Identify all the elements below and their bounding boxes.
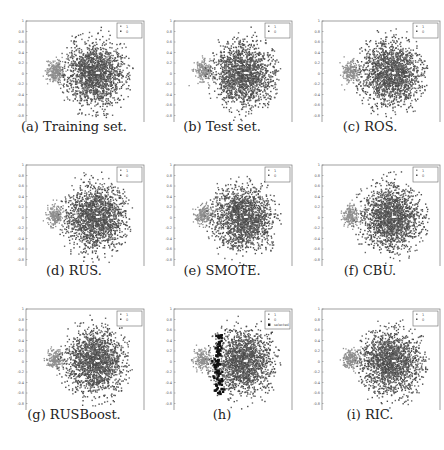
- scatter-plot: 2.533.544.5510.80.60.40.20-0.2-0.4-0.6-0…: [148, 2, 296, 122]
- legend: 10: [413, 311, 438, 326]
- y-tick-label: 0: [22, 216, 24, 220]
- y-tick-label: 0.2: [166, 61, 172, 65]
- y-tick-label: -0.8: [165, 114, 172, 118]
- y-tick-label: 0.8: [18, 318, 24, 322]
- y-tick-label: 0.6: [166, 184, 172, 188]
- y-tick-label: 0.8: [18, 174, 24, 178]
- y-tick-label: 0.2: [314, 61, 320, 65]
- y-tick-label: 0.2: [166, 205, 172, 209]
- y-tick-label: 0.6: [18, 328, 24, 332]
- y-tick-label: 0.6: [166, 328, 172, 332]
- y-tick-label: 0.6: [314, 184, 320, 188]
- panel-caption: (f) CBU.: [296, 263, 444, 278]
- y-tick-label: 0.4: [166, 51, 172, 55]
- panel-c: 2.533.544.5510.80.60.40.20-0.2-0.4-0.6-0…: [296, 2, 444, 146]
- legend: 10: [117, 23, 142, 38]
- scatter-plot: 2.533.544.5510.80.60.40.20-0.2-0.4-0.6-0…: [296, 290, 444, 410]
- y-tick-label: -0.6: [17, 247, 24, 251]
- y-tick-label: 0.4: [314, 339, 320, 343]
- legend-label: 0: [126, 174, 128, 178]
- y-tick-label: 1: [170, 19, 172, 23]
- legend-label: 1: [126, 169, 128, 173]
- legend: 10: [265, 167, 290, 182]
- panel-caption: (d) RUS.: [0, 263, 148, 278]
- y-tick-label: -0.2: [313, 226, 320, 230]
- y-tick-label: 1: [318, 307, 320, 311]
- legend-label: 1: [422, 169, 424, 173]
- y-tick-label: 0: [318, 72, 320, 76]
- legend-label: 1: [274, 25, 276, 29]
- y-tick-label: -0.4: [313, 93, 321, 97]
- y-tick-label: -0.8: [313, 114, 320, 118]
- y-tick-label: -0.4: [313, 381, 321, 385]
- panel-e: 2.533.544.5510.80.60.40.20-0.2-0.4-0.6-0…: [148, 146, 296, 290]
- legend: 10: [413, 167, 438, 182]
- y-tick-label: 0.8: [314, 30, 320, 34]
- y-tick-label: -0.2: [313, 370, 320, 374]
- y-tick-label: -0.4: [165, 381, 173, 385]
- y-tick-label: -0.6: [165, 391, 172, 395]
- y-tick-label: 0: [22, 360, 24, 364]
- y-tick-label: 1: [22, 19, 24, 23]
- legend-label: 1: [422, 25, 424, 29]
- y-tick-label: -0.6: [313, 103, 320, 107]
- y-tick-label: 1: [170, 163, 172, 167]
- y-tick-label: 0.6: [314, 40, 320, 44]
- scatter-plot: 2.533.544.5510.80.60.40.20-0.2-0.4-0.6-0…: [0, 146, 148, 266]
- panel-f: 2.533.544.5510.80.60.40.20-0.2-0.4-0.6-0…: [296, 146, 444, 290]
- y-tick-label: 0.8: [166, 30, 172, 34]
- panel-caption: (g) RUSBoost.: [0, 407, 148, 422]
- panel-caption: (h): [148, 407, 296, 422]
- y-tick-label: 0: [318, 360, 320, 364]
- y-tick-label: 0.4: [18, 195, 24, 199]
- y-tick-label: -0.6: [17, 391, 24, 395]
- legend: 10: [117, 167, 142, 182]
- legend-label: 1: [274, 169, 276, 173]
- y-tick-label: 1: [22, 307, 24, 311]
- y-tick-label: -0.8: [17, 258, 24, 262]
- scatter-plot: 2.533.544.5510.80.60.40.20-0.2-0.4-0.6-0…: [296, 146, 444, 266]
- legend-label: 0: [126, 30, 128, 34]
- legend-label: 1: [422, 313, 424, 317]
- panel-caption: (a) Training set.: [0, 119, 148, 134]
- y-tick-label: 0.8: [314, 174, 320, 178]
- y-tick-label: 0.4: [314, 51, 320, 55]
- y-tick-label: -0.8: [313, 402, 320, 406]
- legend-label: 0: [422, 30, 424, 34]
- y-tick-label: -0.2: [165, 226, 172, 230]
- y-tick-label: 0: [22, 72, 24, 76]
- panel-caption: (b) Test set.: [148, 119, 296, 134]
- y-tick-label: -0.6: [313, 391, 320, 395]
- y-tick-label: 0.2: [18, 61, 24, 65]
- y-tick-label: 0: [170, 72, 172, 76]
- y-tick-label: 1: [170, 307, 172, 311]
- y-tick-label: -0.8: [165, 402, 172, 406]
- scatter-plot: 2.533.544.5510.80.60.40.20-0.2-0.4-0.6-0…: [148, 146, 296, 266]
- y-tick-label: 1: [318, 19, 320, 23]
- y-tick-label: -0.6: [313, 247, 320, 251]
- y-tick-label: 0: [318, 216, 320, 220]
- y-tick-label: -0.4: [17, 93, 25, 97]
- y-tick-label: 0.2: [18, 349, 24, 353]
- scatter-plot: 2.533.544.5510.80.60.40.20-0.2-0.4-0.6-0…: [0, 290, 148, 410]
- y-tick-label: 0.4: [18, 51, 24, 55]
- y-tick-label: 0.8: [18, 30, 24, 34]
- legend-label: 1: [126, 25, 128, 29]
- y-tick-label: -0.8: [313, 258, 320, 262]
- y-tick-label: 0.6: [18, 184, 24, 188]
- y-tick-label: 0.8: [166, 174, 172, 178]
- y-tick-label: 1: [318, 163, 320, 167]
- legend-label: 0: [274, 174, 276, 178]
- y-tick-label: 0.8: [166, 318, 172, 322]
- y-tick-label: -0.4: [313, 237, 321, 241]
- y-tick-label: 0.8: [314, 318, 320, 322]
- legend-label: 0: [274, 30, 276, 34]
- legend: 10: [413, 23, 438, 38]
- legend-label: 0: [126, 318, 128, 322]
- scatter-plot: 2.533.544.5510.80.60.40.20-0.2-0.4-0.6-0…: [296, 2, 444, 122]
- y-tick-label: -0.2: [313, 82, 320, 86]
- y-tick-label: -0.8: [165, 258, 172, 262]
- y-tick-label: -0.6: [165, 247, 172, 251]
- y-tick-label: -0.4: [165, 237, 173, 241]
- y-tick-label: -0.2: [17, 226, 24, 230]
